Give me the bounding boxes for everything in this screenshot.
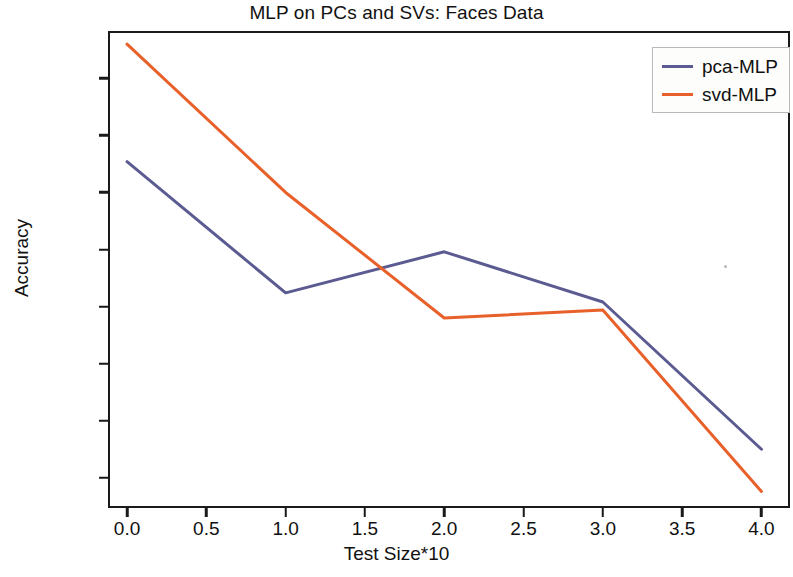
x-tick-mark — [602, 508, 605, 517]
x-tick-mark — [443, 508, 446, 517]
y-tick-mark — [99, 77, 108, 80]
x-tick-mark — [364, 508, 367, 517]
x-tick-mark — [681, 508, 684, 517]
x-tick-label: 3.5 — [669, 518, 695, 540]
y-tick-mark — [99, 134, 108, 137]
x-axis-label: Test Size*10 — [0, 543, 793, 565]
x-tick-label: 0.5 — [193, 518, 219, 540]
x-tick-mark — [284, 508, 287, 517]
x-tick-label: 0.0 — [114, 518, 140, 540]
x-tick-mark — [522, 508, 525, 517]
x-tick-label: 4.0 — [748, 518, 774, 540]
y-tick-mark — [99, 419, 108, 422]
scan-speck — [724, 265, 727, 268]
x-tick-label: 2.0 — [431, 518, 457, 540]
legend-swatch-svd-MLP — [662, 93, 693, 96]
chart-legend: pca-MLPsvd-MLP — [652, 47, 790, 113]
y-tick-mark — [99, 477, 108, 480]
x-tick-label: 1.5 — [352, 518, 378, 540]
x-tick-label: 3.0 — [590, 518, 616, 540]
legend-swatch-pca-MLP — [662, 65, 693, 68]
y-tick-mark — [99, 248, 108, 251]
y-axis-label: Accuracy — [11, 198, 33, 318]
x-tick-mark — [760, 508, 763, 517]
x-tick-mark — [126, 508, 129, 517]
legend-entry-svd-MLP: svd-MLP — [662, 83, 777, 105]
legend-entry-pca-MLP: pca-MLP — [662, 55, 778, 77]
chart-figure: MLP on PCs and SVs: Faces Data 0.450.500… — [0, 0, 793, 577]
x-tick-mark — [205, 508, 208, 517]
x-tick-label: 1.0 — [272, 518, 298, 540]
y-tick-mark — [99, 362, 108, 365]
y-tick-mark — [99, 305, 108, 308]
legend-label: pca-MLP — [702, 57, 778, 76]
x-tick-label: 2.5 — [510, 518, 536, 540]
y-tick-mark — [99, 191, 108, 194]
legend-label: svd-MLP — [702, 85, 777, 104]
